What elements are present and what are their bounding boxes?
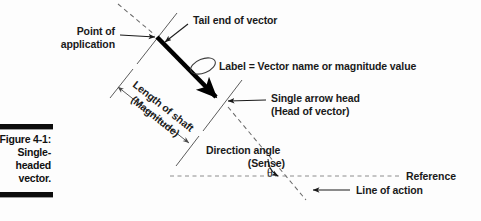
figure-panel: Figure 4-1: Single- headed vector. (0, 0, 481, 221)
label-arrow-head-line2: (Head of vector) (271, 105, 349, 117)
figure-number: Figure 4-1: (0, 133, 51, 145)
dimension-extension-bottom (176, 136, 199, 166)
caption-top-bar (0, 124, 53, 129)
label-point-of-application-line1: Point of (77, 25, 116, 37)
caption-line-1: Single- (17, 146, 51, 158)
caption-line-3: vector. (19, 172, 52, 184)
leader-point-of-application (120, 35, 155, 37)
label-line-of-action: Line of action (356, 184, 423, 196)
leader-tail-end (165, 24, 188, 42)
label-point-of-application-line2: application (61, 38, 115, 50)
caption-line-2: headed (15, 159, 51, 171)
label-tail-end: Tail end of vector (193, 14, 277, 26)
dimension-extension-top (110, 69, 133, 98)
label-arrow-head-line1: Single arrow head (271, 92, 360, 104)
magnitude-label-group: Length of shaft (Magnitude) (123, 78, 197, 144)
label-theta: θ (267, 166, 273, 180)
label-label-note: Label = Vector name or magnitude value (219, 60, 416, 72)
vector-diagram: Figure 4-1: Single- headed vector. (0, 0, 481, 221)
line-of-action-upper-dashed (118, 4, 155, 35)
vector-shaft (157, 37, 216, 97)
label-reference: Reference (406, 170, 456, 182)
caption-bottom-bar (0, 192, 53, 197)
label-direction-angle-line1: Direction angle (206, 144, 281, 156)
leader-arrow-head (228, 100, 266, 101)
